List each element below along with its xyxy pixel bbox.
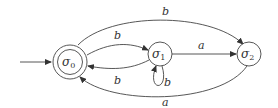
edge-label-s0-s1: b [114, 29, 121, 42]
edge-s1-s0-b [88, 60, 149, 68]
edge-label-s1-s0: b [114, 74, 121, 87]
state-s1-subscript: 1 [160, 53, 165, 62]
state-s2: σ2 [237, 42, 261, 66]
state-s0: σ0 [53, 45, 87, 79]
state-s0-subscript: 0 [70, 61, 75, 70]
edge-label-s1-self: b [164, 76, 171, 89]
automaton-diagram: b b b b a a σ0 σ1 σ2 [0, 0, 278, 108]
state-s1: σ1 [148, 42, 172, 66]
edge-label-s0-s2: b [162, 5, 169, 18]
state-s2-subscript: 2 [249, 53, 254, 62]
edge-s0-s2-b [78, 20, 243, 45]
edge-label-s2-s0: a [162, 96, 169, 108]
edge-label-s1-s2: a [198, 39, 205, 52]
edge-s0-s1-b [87, 45, 148, 55]
edge-s1-self-b [154, 66, 164, 86]
